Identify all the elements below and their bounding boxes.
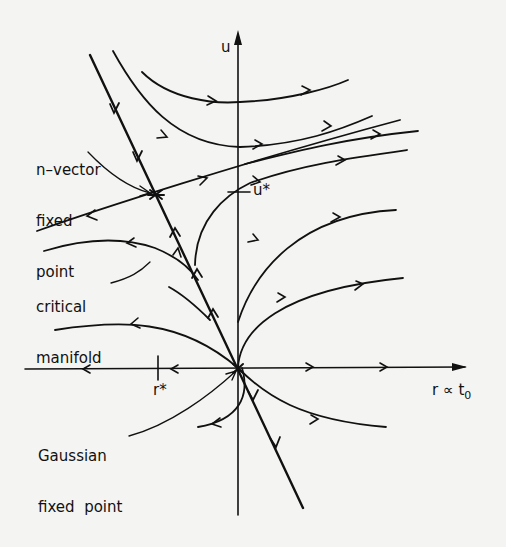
n-vector-label-line2: fixed [36,213,101,230]
trajectory-right-3 [238,210,396,322]
flow-arrow [310,415,318,424]
flow-arrow [277,293,285,302]
r-axis-arrowhead [452,363,467,371]
r-axis-label-subscript: 0 [464,389,471,402]
flow-arrow [253,140,262,149]
n-vector-label-line1: n–vector [36,162,101,179]
gaussian-fixed-point-label: Gaussian fixed point [38,414,122,533]
gaussian-label-line2: fixed point [38,499,122,516]
u-star-label: u* [253,181,271,199]
flow-arrow [157,130,167,138]
gaussian-label-line1: Gaussian [38,448,122,465]
trajectory-right-2 [195,150,407,265]
critical-label-line2: manifold [36,350,102,367]
r-axis-label: r ∝ t0 [432,381,471,402]
flow-arrow [322,121,331,131]
r-axis-label-main: r ∝ t [432,381,464,399]
trajectory-right-4 [238,278,403,368]
critical-manifold-label: critical manifold [36,265,102,384]
trajectory-left-2 [169,287,210,320]
u-axis-arrowhead [234,30,242,45]
flow-arrow [248,234,258,242]
trajectory-right-1 [245,131,418,164]
critical-manifold-leader [111,262,150,283]
u-axis-label: u [221,38,231,56]
flow-arrow [355,281,363,290]
trajectory-top-2 [113,51,372,147]
r-star-label: r* [153,381,167,399]
critical-label-line1: critical [36,299,102,316]
flow-arrow [173,248,181,257]
flow-arrow [371,130,380,139]
trajectory-top-1 [142,72,348,102]
flow-arrow [131,318,140,328]
